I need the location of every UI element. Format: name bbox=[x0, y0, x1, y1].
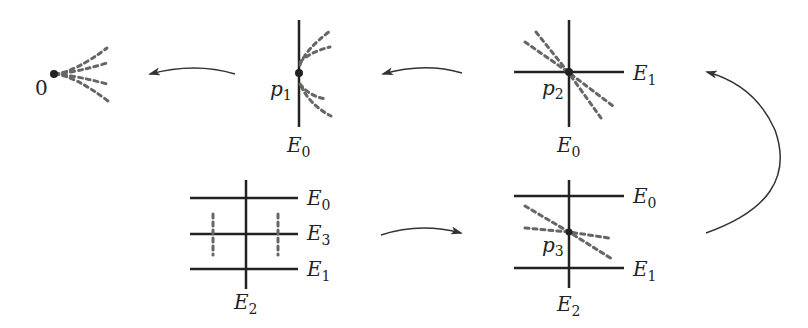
E1-label: E1 bbox=[632, 257, 657, 284]
E2-label: E2 bbox=[556, 292, 581, 319]
panel-origin: 0 bbox=[35, 48, 108, 101]
blowup-diagram: 0 p1 E0 p2 E1 E0 bbox=[0, 0, 808, 328]
panel-p3: p3 E0 E1 E2 bbox=[514, 180, 657, 319]
E1-label: E1 bbox=[306, 257, 331, 284]
E3-label: E3 bbox=[306, 221, 331, 248]
curve-branches bbox=[300, 31, 331, 116]
arrow-p2-to-p1 bbox=[383, 68, 462, 74]
E0-label: E0 bbox=[306, 186, 331, 213]
panel-p2: p2 E1 E0 bbox=[514, 20, 657, 160]
point-p2 bbox=[565, 68, 573, 76]
arrow-p1-to-origin bbox=[150, 68, 235, 74]
point-p1 bbox=[295, 69, 303, 77]
panel-final: E0 E3 E1 E2 bbox=[190, 180, 331, 317]
E0-label: E0 bbox=[556, 133, 581, 160]
E0-label: E0 bbox=[286, 133, 311, 160]
E2-label: E2 bbox=[233, 290, 258, 317]
p1-label: p1 bbox=[270, 77, 292, 103]
p3-label: p3 bbox=[542, 233, 564, 259]
origin-label: 0 bbox=[35, 76, 48, 100]
curve-branches bbox=[55, 48, 108, 101]
point-p3 bbox=[566, 229, 573, 236]
arrow-p3-to-p2 bbox=[706, 72, 780, 233]
E0-label: E0 bbox=[632, 184, 657, 211]
origin-point bbox=[50, 70, 58, 78]
E1-label: E1 bbox=[632, 61, 657, 88]
arrow-final-to-p3 bbox=[381, 228, 461, 235]
p2-label: p2 bbox=[542, 76, 564, 102]
panel-p1: p1 E0 bbox=[270, 20, 331, 160]
